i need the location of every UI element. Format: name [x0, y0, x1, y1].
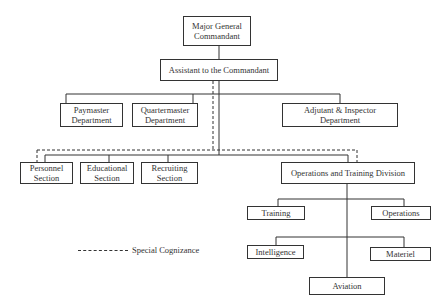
- node-operations: Operations: [371, 206, 431, 220]
- node-quartermaster: Quartermaster Department: [132, 103, 198, 127]
- node-recruiting: Recruiting Section: [141, 162, 198, 184]
- node-intelligence: Intelligence: [247, 245, 304, 259]
- node-materiel: Materiel: [370, 247, 431, 261]
- legend-special-cognizance: Special Cognizance: [78, 245, 199, 255]
- node-aviation: Aviation: [309, 277, 385, 295]
- node-commandant: Major General Commandant: [183, 16, 251, 46]
- node-training: Training: [247, 206, 305, 220]
- org-chart-lines: [0, 0, 448, 308]
- dashed-line-swatch: [78, 250, 128, 251]
- node-educational: Educational Section: [80, 162, 134, 184]
- node-adjutant: Adjutant & Inspector Department: [282, 103, 398, 127]
- node-assistant: Assistant to the Commandant: [160, 59, 278, 81]
- legend-label: Special Cognizance: [132, 245, 199, 255]
- node-paymaster: Paymaster Department: [60, 103, 123, 127]
- node-ops-training: Operations and Training Division: [281, 162, 415, 184]
- node-personnel: Personnel Section: [20, 162, 73, 184]
